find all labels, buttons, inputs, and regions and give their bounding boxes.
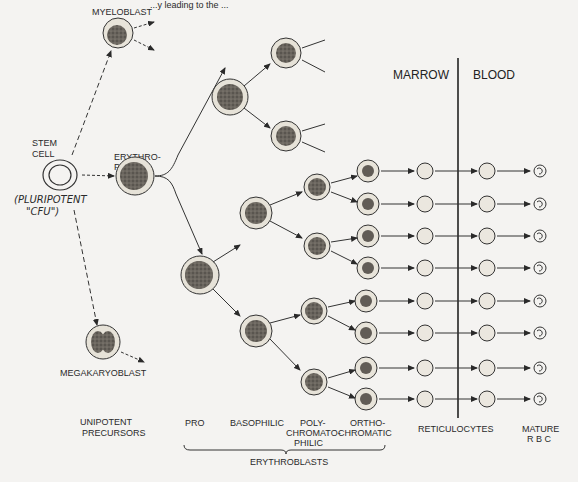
megakaryoblast-cell — [86, 325, 120, 359]
marrow-reticulocytes — [417, 163, 433, 407]
ortho-to-retic-arrows — [379, 171, 414, 399]
basophilic-cell-a — [271, 38, 301, 68]
stage-label-erythroblasts: ERYTHROBLASTS — [250, 457, 328, 467]
stage-label-unipotent-2: PRECURSORS — [82, 428, 146, 438]
polychromatophilic-cell-d — [301, 369, 327, 395]
basophilic-cell-d — [240, 315, 272, 347]
stage-label-poly-3: PHILIC — [294, 438, 324, 448]
stage-label-ortho-1: ORTHO- — [350, 418, 385, 428]
stage-label-poly-1: POLY- — [300, 418, 326, 428]
stage-label-mature-2: R B C — [527, 434, 552, 444]
stem-cell — [43, 160, 77, 190]
stage-label-mature-1: MATURE — [522, 424, 559, 434]
myeloblast-label: MYELOBLAST — [92, 7, 153, 17]
stem-cell-label-1: STEM — [32, 138, 57, 148]
basophilic-cell-c — [240, 197, 272, 229]
mature-rbcs — [534, 165, 546, 405]
pro-erythroblast-top — [212, 79, 248, 115]
polychromatophilic-cell-c — [301, 298, 327, 324]
erythroblasts-bracket — [184, 445, 385, 454]
retic-crossing-arrows — [435, 171, 477, 399]
pluripotent-label-1: (PLURIPOTENT — [14, 194, 88, 205]
stage-label-ortho-2: CHROMATIC — [338, 428, 392, 438]
polychromatophilic-cell-a — [304, 174, 330, 200]
erythropoiesis-diagram: ...y leading to the ... MYELOBLAST STEM … — [0, 0, 578, 482]
retic-to-rbc-arrows — [497, 171, 530, 399]
stage-label-basophilic: BASOPHILIC — [230, 418, 285, 428]
megakaryoblast-label: MEGAKARYOBLAST — [60, 368, 147, 378]
stage-label-unipotent-1: UNIPOTENT — [80, 417, 133, 427]
polychromatophilic-cell-b — [304, 233, 330, 259]
myeloblast-cell — [103, 18, 133, 48]
blood-label: BLOOD — [473, 68, 515, 82]
marrow-label: MARROW — [393, 68, 450, 82]
title-fragment: ...y leading to the ... — [150, 0, 229, 10]
stage-label-pro: PRO — [185, 418, 205, 428]
pluripotent-label-2: "CFU") — [26, 206, 59, 217]
orthochromatic-column — [355, 160, 379, 410]
stage-label-poly-2: CHROMATO- — [286, 428, 341, 438]
erythroid-precursor-cell — [116, 157, 154, 195]
stem-cell-label-2: CELL — [32, 149, 55, 159]
blood-reticulocytes — [479, 163, 495, 407]
basophilic-cell-b — [271, 121, 301, 151]
stage-label-reticulocytes: RETICULOCYTES — [418, 424, 494, 434]
